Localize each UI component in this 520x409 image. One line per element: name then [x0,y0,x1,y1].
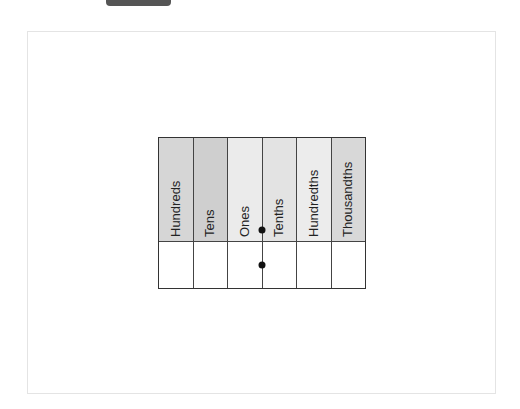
header-label: Thousandths [340,162,355,237]
value-cell[interactable] [228,242,263,288]
header-cell-thousandths: Thousandths [332,138,366,241]
header-cell-tens: Tens [194,138,229,241]
header-label: Hundredths [306,170,321,237]
header-cell-tenths: Tenths [263,138,298,241]
value-cell[interactable] [297,242,332,288]
header-label: Tens [202,210,217,237]
header-cell-hundredths: Hundredths [297,138,332,241]
value-cell[interactable] [332,242,366,288]
header-label: Hundreds [168,181,183,237]
header-cell-ones: Ones [228,138,263,241]
value-cell[interactable] [263,242,298,288]
decimal-point-dot-header [259,227,266,234]
header-cell-hundreds: Hundreds [159,138,194,241]
decimal-point-dot-value [259,262,266,269]
top-tab-bar [106,0,171,6]
header-label: Ones [237,206,252,237]
header-label: Tenths [271,199,286,237]
value-cell[interactable] [159,242,194,288]
value-cell[interactable] [194,242,229,288]
